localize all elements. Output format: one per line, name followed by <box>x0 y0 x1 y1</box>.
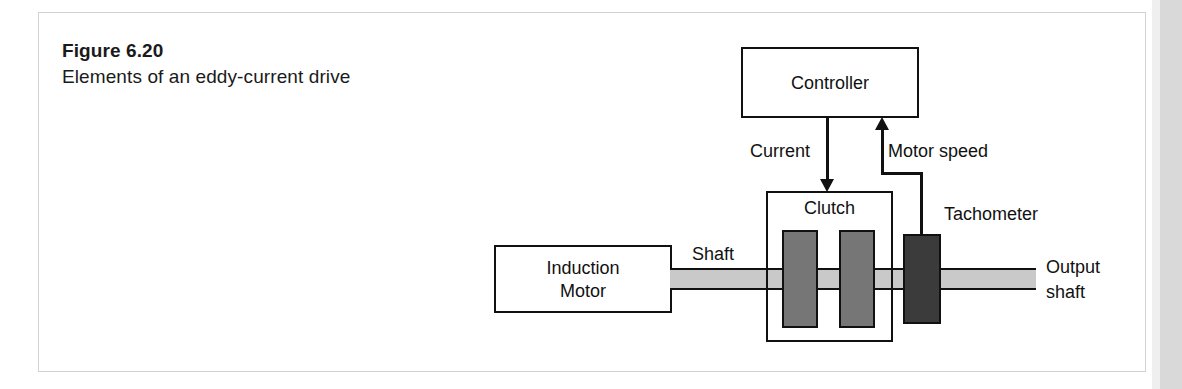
figure-title: Elements of an eddy-current drive <box>62 64 482 90</box>
motor-speed-arrowhead-icon <box>875 117 889 130</box>
tachometer-block <box>903 234 941 324</box>
current-wire <box>826 118 829 181</box>
controller-block: Controller <box>741 47 919 118</box>
current-label: Current <box>750 140 810 163</box>
feedback-wire-riser <box>920 172 923 236</box>
tachometer-label: Tachometer <box>944 203 1038 226</box>
induction-motor-block: Induction Motor <box>494 245 672 313</box>
controller-label: Controller <box>743 72 917 95</box>
clutch-disc-left <box>782 230 818 328</box>
motor-speed-label: Motor speed <box>888 140 988 163</box>
feedback-wire-to-controller <box>881 128 884 174</box>
feedback-wire-horizontal <box>881 172 923 175</box>
scan-edge-inner <box>1152 0 1160 389</box>
figure-caption: Figure 6.20 Elements of an eddy-current … <box>62 38 482 90</box>
clutch-disc-right <box>839 230 875 328</box>
output-shaft-label-line1: Output <box>1046 256 1100 279</box>
induction-motor-label-line2: Motor <box>496 280 670 303</box>
clutch-label: Clutch <box>766 197 893 220</box>
induction-motor-label-line1: Induction <box>496 257 670 280</box>
figure-number: Figure 6.20 <box>62 38 482 64</box>
scan-edge-shadow <box>1160 0 1182 389</box>
figure-page: Figure 6.20 Elements of an eddy-current … <box>0 0 1182 389</box>
shaft-label: Shaft <box>692 243 734 266</box>
output-shaft-label-line2: shaft <box>1046 281 1085 304</box>
